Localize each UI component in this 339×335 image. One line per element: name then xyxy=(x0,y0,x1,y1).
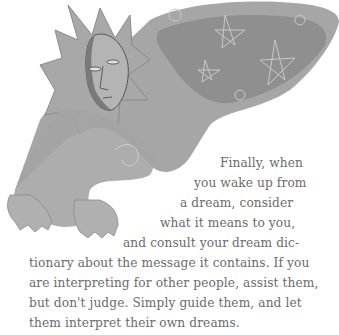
text-line: tionary about the message it contains. I… xyxy=(29,256,310,270)
text-line: and consult your dream dic- xyxy=(123,236,299,250)
text-line: you wake up from xyxy=(194,176,306,190)
text-line: are interpreting for other people, assis… xyxy=(29,276,318,290)
text-line: but don't judge. Simply guide them, and … xyxy=(29,296,302,310)
text-line: a dream, consider xyxy=(180,196,293,210)
dream-advice-paragraph: Finally, when you wake up from a dream, … xyxy=(0,0,339,335)
text-line: them interpret their own dreams. xyxy=(29,316,240,330)
text-line: Finally, when xyxy=(220,156,303,170)
text-line: what it means to you, xyxy=(160,216,295,230)
